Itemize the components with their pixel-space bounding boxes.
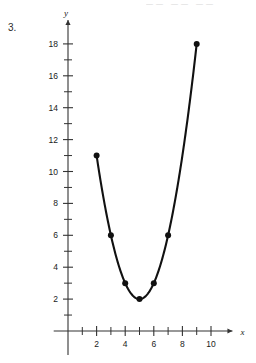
- data-point: [108, 232, 114, 238]
- x-tick-label: 6: [151, 339, 156, 349]
- data-points-group: [94, 41, 200, 302]
- y-tick-label: 18: [49, 39, 59, 49]
- data-point: [122, 280, 128, 286]
- axis-titles-group: xy: [63, 8, 244, 337]
- axes-group: [54, 20, 233, 355]
- x-tick-label: 8: [180, 339, 185, 349]
- y-tick-label: 10: [49, 167, 59, 177]
- data-point: [151, 280, 157, 286]
- y-axis-title: y: [63, 8, 68, 18]
- x-axis-title: x: [239, 327, 244, 337]
- data-point: [165, 232, 171, 238]
- y-axis-arrow-icon: [65, 20, 70, 25]
- parabola-curve: [97, 44, 197, 299]
- y-tick-label: 4: [53, 262, 58, 272]
- data-point: [137, 296, 143, 302]
- worksheet-page: —— —— —— 3. 24681024681012141618 xy: [0, 0, 256, 363]
- x-axis-arrow-icon: [227, 328, 232, 333]
- y-tick-label: 14: [49, 103, 59, 113]
- y-tick-label: 2: [53, 294, 58, 304]
- ticks-group: [63, 44, 211, 336]
- x-tick-label: 4: [123, 339, 128, 349]
- curve-path-group: [97, 44, 197, 299]
- x-tick-label: 2: [94, 339, 99, 349]
- data-point: [94, 153, 100, 159]
- parabola-scatter-plot: 24681024681012141618 xy: [0, 0, 256, 363]
- y-tick-label: 16: [49, 71, 59, 81]
- y-tick-label: 8: [53, 198, 58, 208]
- x-tick-label: 10: [206, 339, 216, 349]
- y-tick-label: 6: [53, 230, 58, 240]
- data-point: [194, 41, 200, 47]
- y-tick-label: 12: [49, 135, 59, 145]
